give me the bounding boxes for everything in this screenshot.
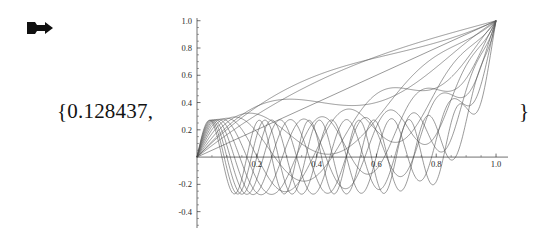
- plot-curve: [197, 21, 496, 194]
- plot-curve: [197, 21, 496, 194]
- x-tick-label: 0.8: [431, 159, 442, 169]
- y-tick-label: 0.8: [181, 43, 192, 53]
- right-arrow-icon: [26, 20, 56, 36]
- x-tick-label: 0.4: [311, 159, 322, 169]
- y-tick-label: 1.0: [181, 16, 192, 26]
- output-marker[interactable]: [26, 20, 56, 36]
- plot-curve: [197, 21, 496, 157]
- x-tick-label: 0.6: [371, 159, 382, 169]
- x-tick-label: 0.2: [251, 159, 262, 169]
- expression-close: }: [519, 99, 529, 124]
- y-tick-label: 0.2: [181, 125, 192, 135]
- x-tick-label: 1.0: [491, 159, 502, 169]
- plot-curve: [197, 21, 496, 192]
- plot-curve: [197, 21, 496, 194]
- y-tick-label: -0.4: [179, 207, 193, 217]
- expression-open: {0.128437,: [57, 99, 153, 124]
- y-tick-label: -0.2: [179, 179, 192, 189]
- plot-curve: [197, 21, 496, 195]
- plot-curves: [197, 21, 496, 195]
- y-tick-label: 0.6: [181, 70, 192, 80]
- plot-curve: [197, 21, 496, 195]
- plot-curve: [197, 21, 496, 195]
- y-tick-label: 0.4: [181, 98, 192, 108]
- plot-figure: 0.20.40.60.81.0-0.4-0.20.20.40.60.81.0: [168, 2, 518, 234]
- plot-curve: [197, 21, 496, 195]
- plot-canvas: 0.20.40.60.81.0-0.4-0.20.20.40.60.81.0: [168, 2, 518, 234]
